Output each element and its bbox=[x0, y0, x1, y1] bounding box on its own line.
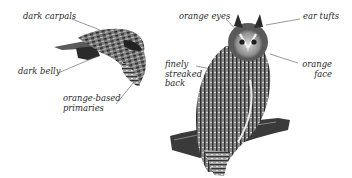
leader-orange-face bbox=[270, 54, 298, 63]
label-line: back bbox=[165, 79, 202, 89]
label-ear-tufts: ear tufts bbox=[303, 12, 339, 22]
label-orange-eyes: orange eyes bbox=[179, 12, 230, 22]
flying-owl bbox=[54, 29, 146, 86]
owl-illustration: dark carpals dark belly orange-based pri… bbox=[0, 0, 352, 178]
label-line: face bbox=[298, 70, 332, 80]
label-dark-carpals: dark carpals bbox=[23, 12, 76, 22]
leader-ear-tufts bbox=[266, 19, 300, 25]
label-orange-based-primaries: orange-based primaries bbox=[63, 94, 121, 113]
leader-dark-carpals bbox=[72, 19, 100, 30]
label-dark-belly: dark belly bbox=[18, 67, 61, 77]
label-orange-face: orange face bbox=[298, 60, 332, 79]
perched-owl bbox=[170, 14, 290, 176]
label-line: primaries bbox=[63, 104, 121, 114]
leader-dark-belly bbox=[58, 56, 98, 73]
owl-artwork bbox=[0, 0, 352, 178]
label-finely-streaked-back: finely streaked back bbox=[165, 60, 202, 89]
